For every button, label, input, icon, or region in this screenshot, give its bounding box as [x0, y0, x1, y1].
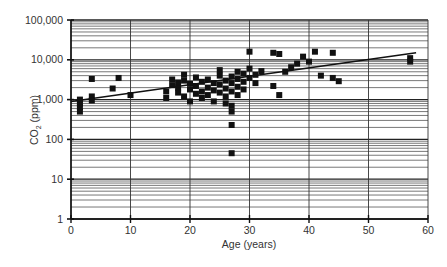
x-tick-label: 50 [363, 224, 375, 236]
data-point [306, 59, 312, 65]
co2-age-scatter-chart: 1101001,00010,000100,000 0102030405060 A… [0, 0, 447, 267]
data-point [187, 86, 193, 92]
data-point [407, 55, 413, 61]
data-point [229, 103, 235, 109]
data-point [217, 90, 223, 96]
y-tick-label: 100 [45, 133, 63, 145]
y-tick-label: 1 [57, 213, 63, 225]
data-point [241, 71, 247, 77]
data-point [223, 86, 229, 92]
data-point [330, 75, 336, 81]
data-point [276, 51, 282, 57]
data-point [258, 68, 264, 74]
data-points [77, 49, 413, 157]
data-point [211, 98, 217, 104]
y-tick-label: 10 [51, 173, 63, 185]
data-point [181, 72, 187, 78]
data-point [276, 92, 282, 98]
x-tick-label: 20 [184, 224, 196, 236]
data-point [89, 76, 95, 82]
data-point [163, 95, 169, 101]
data-point [229, 122, 235, 128]
data-point [110, 86, 116, 92]
data-point [193, 91, 199, 97]
y-axis-label: CO2 (ppm) [28, 95, 42, 145]
data-point [211, 87, 217, 93]
y-tick-label: 10,000 [31, 53, 63, 65]
x-tick-label: 60 [422, 224, 434, 236]
data-point [241, 86, 247, 92]
data-point [229, 88, 235, 94]
data-point [199, 88, 205, 94]
x-tick-label: 30 [244, 224, 256, 236]
data-point [175, 79, 181, 85]
data-point [163, 88, 169, 94]
data-point [229, 109, 235, 115]
data-point [336, 78, 342, 84]
data-point [241, 79, 247, 85]
data-point [300, 54, 306, 60]
data-point [247, 49, 253, 55]
data-point [252, 80, 258, 86]
data-point [169, 76, 175, 82]
data-point [187, 98, 193, 104]
data-point [330, 50, 336, 56]
data-point [199, 95, 205, 101]
x-tick-label: 0 [68, 224, 74, 236]
x-tick-label: 10 [125, 224, 137, 236]
chart-canvas: 1101001,00010,000100,000 0102030405060 A… [0, 0, 447, 267]
data-point [205, 92, 211, 98]
data-point [294, 61, 300, 67]
data-point [235, 84, 241, 90]
x-axis-label: Age (years) [222, 238, 276, 250]
y-tick-label: 1,000 [37, 93, 63, 105]
x-tick-label: 40 [303, 224, 315, 236]
data-point [235, 69, 241, 75]
data-point [270, 83, 276, 89]
data-point [223, 93, 229, 99]
data-point [312, 49, 318, 55]
data-point [318, 73, 324, 79]
data-point [223, 100, 229, 106]
data-point [235, 92, 241, 98]
data-point [217, 81, 223, 87]
data-point [193, 74, 199, 80]
data-point [205, 85, 211, 91]
data-point [116, 75, 122, 81]
data-point [175, 90, 181, 96]
data-point [181, 93, 187, 99]
data-point [217, 67, 223, 73]
data-point [181, 78, 187, 84]
data-point [247, 66, 253, 72]
data-point [229, 80, 235, 86]
data-point [77, 109, 83, 115]
y-tick-label: 100,000 [25, 14, 63, 26]
data-point [270, 50, 276, 56]
data-point [229, 150, 235, 156]
data-point [217, 73, 223, 79]
x-axis-ticks: 0102030405060 [68, 215, 434, 236]
